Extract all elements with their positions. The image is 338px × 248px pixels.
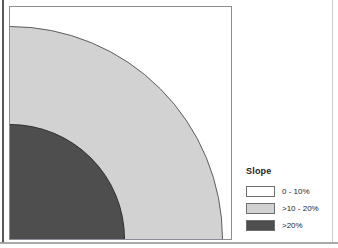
legend-item-high: >20% [243, 217, 333, 234]
map-panel [9, 6, 232, 240]
figure-bottom-rule [0, 242, 338, 244]
legend-label-high: >20% [282, 220, 303, 231]
map-legend: Slope 0 - 10% >10 - 20% >20% [243, 166, 333, 234]
legend-swatch-high [246, 220, 275, 231]
legend-item-mid: >10 - 20% [243, 200, 333, 217]
legend-title: Slope [246, 166, 333, 177]
legend-swatch-low [246, 186, 275, 197]
legend-label-mid: >10 - 20% [282, 203, 319, 214]
figure-left-rule [2, 0, 4, 243]
legend-item-low: 0 - 10% [243, 183, 333, 200]
legend-swatch-mid [246, 203, 275, 214]
legend-label-low: 0 - 10% [282, 186, 310, 197]
figure-canvas: Slope 0 - 10% >10 - 20% >20% [0, 0, 338, 248]
